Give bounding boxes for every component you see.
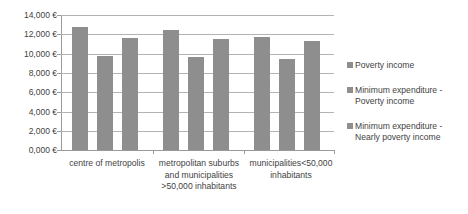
bar[interactable] (188, 57, 204, 150)
bar[interactable] (72, 27, 88, 150)
bar[interactable] (97, 56, 113, 150)
category-label-line: inhabitants (243, 170, 339, 182)
bar[interactable] (163, 30, 179, 150)
bar[interactable] (122, 38, 138, 150)
category-label-line: and municipalities (148, 170, 250, 182)
legend-item-poverty-income[interactable]: Poverty income (347, 60, 465, 71)
x-axis-category-label-2: municipalities<50,000 inhabitants (243, 158, 339, 181)
x-axis-category-label-0: centre of metropolis (61, 158, 153, 170)
bar-chart: 14,000 € 12,000 € 10,000 € 8,000 € 6,000… (0, 0, 468, 214)
gridline (61, 15, 334, 16)
legend-label-line: Minimum expenditure - (355, 121, 442, 131)
legend-swatch-icon (347, 123, 353, 129)
y-axis-tick-label: 2,000 € (3, 127, 57, 136)
bar[interactable] (279, 59, 295, 150)
chart-legend: Poverty income Minimum expenditure -Pove… (347, 60, 465, 157)
legend-item-min-expenditure-poverty-income[interactable]: Minimum expenditure -Poverty income (347, 85, 465, 107)
bar[interactable] (304, 41, 320, 150)
category-label-line: centre of metropolis (61, 158, 153, 170)
y-axis-tick-label: 12,000 € (3, 30, 57, 39)
plot-area (61, 15, 334, 150)
y-axis-tick-label: 8,000 € (3, 69, 57, 78)
legend-swatch-icon (347, 62, 353, 68)
legend-item-label: Minimum expenditure -Nearly poverty inco… (355, 121, 442, 143)
y-axis-labels: 14,000 € 12,000 € 10,000 € 8,000 € 6,000… (0, 15, 57, 150)
x-axis-category-label-1: metropolitan suburbs and municipalities … (148, 158, 250, 193)
y-axis-tick-label: 6,000 € (3, 88, 57, 97)
y-axis-tick-label: 0,000 € (3, 146, 57, 155)
legend-item-min-expenditure-nearly-poverty-income[interactable]: Minimum expenditure -Nearly poverty inco… (347, 121, 465, 143)
gridline (61, 54, 334, 55)
legend-label-line: Poverty income (355, 96, 414, 106)
x-axis-category-separator (153, 150, 154, 154)
x-axis-category-separator (334, 150, 335, 154)
y-axis-tick-label: 14,000 € (3, 11, 57, 20)
x-axis-category-separator (244, 150, 245, 154)
legend-label-line: Minimum expenditure - (355, 85, 442, 95)
y-axis-tick-label: 10,000 € (3, 50, 57, 59)
legend-label-line: Nearly poverty income (355, 132, 441, 142)
bar[interactable] (213, 39, 229, 150)
category-label-line: >50,000 inhabitants (148, 181, 250, 193)
legend-item-label: Poverty income (355, 60, 414, 71)
x-axis-baseline (61, 150, 334, 151)
legend-item-label: Minimum expenditure -Poverty income (355, 85, 442, 107)
category-label-line: metropolitan suburbs (148, 158, 250, 170)
bar[interactable] (254, 37, 270, 150)
category-label-line: municipalities<50,000 (243, 158, 339, 170)
y-axis-tick-label: 4,000 € (3, 108, 57, 117)
gridline (61, 34, 334, 35)
legend-swatch-icon (347, 87, 353, 93)
